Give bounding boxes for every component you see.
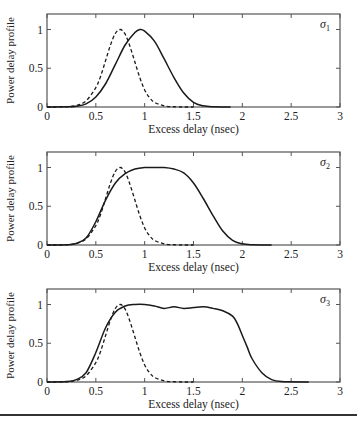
x-tick-label: 1.5 bbox=[186, 110, 201, 122]
x-tick-label: 1.5 bbox=[186, 385, 201, 397]
y-tick-label: 0 bbox=[37, 376, 43, 388]
x-tick-label: 1 bbox=[142, 110, 148, 122]
y-tick-label: 0 bbox=[37, 239, 43, 251]
x-tick-label: 0.5 bbox=[89, 110, 104, 122]
plot-sigma-2: 00.511.522.5300.51Excess delay (nsec)Pow… bbox=[0, 138, 357, 276]
y-tick-label: 1 bbox=[37, 162, 43, 174]
x-tick-label: 2 bbox=[239, 248, 245, 260]
x-tick-label: 0 bbox=[44, 110, 50, 122]
series-profile-solid bbox=[47, 304, 309, 382]
chart-panel-1: 00.511.522.5300.51Excess delay (nsec)Pow… bbox=[0, 0, 357, 138]
series-reference-dashed bbox=[47, 29, 194, 107]
x-tick-label: 2.5 bbox=[284, 385, 299, 397]
chart-panel-2: 00.511.522.5300.51Excess delay (nsec)Pow… bbox=[0, 138, 357, 276]
x-tick-label: 2.5 bbox=[284, 248, 299, 260]
y-tick-label: 0.5 bbox=[29, 62, 44, 74]
panel-label-sigma: σ1 bbox=[320, 17, 330, 33]
x-tick-label: 2 bbox=[239, 110, 245, 122]
series-reference-dashed bbox=[47, 167, 194, 245]
x-tick-label: 0.5 bbox=[89, 385, 104, 397]
x-tick-label: 0 bbox=[44, 385, 50, 397]
plot-frame bbox=[47, 289, 340, 382]
y-axis-label: Power delay profile bbox=[4, 17, 16, 104]
series-profile-solid bbox=[47, 167, 272, 245]
x-tick-label: 0.5 bbox=[89, 248, 104, 260]
y-tick-label: 0 bbox=[37, 101, 43, 113]
series-profile-solid bbox=[47, 29, 231, 107]
panel-label-sigma: σ2 bbox=[320, 155, 330, 171]
y-tick-label: 1 bbox=[37, 24, 43, 36]
chart-panel-3: 00.511.522.5300.51Excess delay (nsec)Pow… bbox=[0, 275, 357, 415]
y-axis-label: Power delay profile bbox=[4, 292, 16, 379]
x-tick-label: 3 bbox=[337, 385, 343, 397]
panel-label-sigma: σ3 bbox=[320, 292, 330, 308]
y-tick-label: 0.5 bbox=[29, 200, 44, 212]
plot-sigma-3: 00.511.522.5300.51Excess delay (nsec)Pow… bbox=[0, 275, 357, 415]
x-tick-label: 3 bbox=[337, 248, 343, 260]
plot-sigma-1: 00.511.522.5300.51Excess delay (nsec)Pow… bbox=[0, 0, 357, 138]
y-tick-label: 1 bbox=[37, 299, 43, 311]
x-tick-label: 3 bbox=[337, 110, 343, 122]
x-tick-label: 0 bbox=[44, 248, 50, 260]
plot-frame bbox=[47, 14, 340, 107]
x-axis-label: Excess delay (nsec) bbox=[148, 261, 239, 274]
series-reference-dashed bbox=[47, 304, 194, 382]
x-axis-label: Excess delay (nsec) bbox=[148, 398, 239, 411]
x-tick-label: 1.5 bbox=[186, 248, 201, 260]
x-tick-label: 1 bbox=[142, 248, 148, 260]
y-tick-label: 0.5 bbox=[29, 337, 44, 349]
bottom-rule-divider bbox=[0, 414, 357, 416]
x-tick-label: 1 bbox=[142, 385, 148, 397]
y-axis-label: Power delay profile bbox=[4, 155, 16, 242]
x-tick-label: 2.5 bbox=[284, 110, 299, 122]
x-tick-label: 2 bbox=[239, 385, 245, 397]
x-axis-label: Excess delay (nsec) bbox=[148, 123, 239, 136]
